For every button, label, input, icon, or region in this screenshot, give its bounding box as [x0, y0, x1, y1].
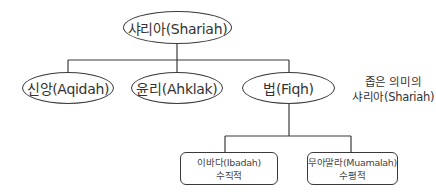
- node-aqidah-label: 신앙(Aqidah): [27, 78, 109, 98]
- node-ibadah-title: 이바다(Ibadah): [197, 156, 261, 169]
- node-fiqh-label: 법(Fiqh): [263, 78, 314, 98]
- node-ibadah-subtitle: 수직적: [216, 169, 242, 182]
- node-akhlak: 윤리(Ahklak): [131, 72, 223, 104]
- node-akhlak-label: 윤리(Ahklak): [136, 78, 217, 98]
- node-shariah-label: 샤리아(Shariah): [128, 18, 228, 38]
- node-aqidah: 신앙(Aqidah): [22, 72, 114, 104]
- node-muamalah: 무아말라(Muamalah) 수평적: [307, 152, 398, 185]
- note-line-1: 좁은 의미의: [350, 75, 436, 90]
- node-ibadah: 이바다(Ibadah) 수직적: [180, 152, 278, 185]
- node-muamalah-title: 무아말라(Muamalah): [308, 156, 397, 169]
- node-muamalah-subtitle: 수평적: [339, 169, 365, 182]
- node-shariah: 샤리아(Shariah): [123, 11, 232, 44]
- node-fiqh: 법(Fiqh): [242, 72, 335, 104]
- note-line-2: 샤리아(Shariah): [350, 90, 436, 105]
- narrow-shariah-note: 좁은 의미의 샤리아(Shariah): [350, 75, 436, 105]
- shariah-hierarchy-diagram: 샤리아(Shariah) 신앙(Aqidah) 윤리(Ahklak) 법(Fiq…: [0, 0, 436, 194]
